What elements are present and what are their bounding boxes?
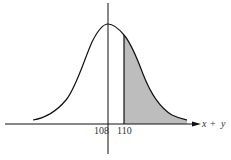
bell-curve (33, 24, 187, 120)
axis-label-y: y (220, 118, 226, 129)
normal-curve-diagram: 108 110 x + y (0, 0, 231, 160)
axis-label-x: x (201, 118, 207, 129)
mean-label: 108 (94, 125, 109, 136)
axis-label-plus: + (210, 118, 216, 129)
axis-arrow-icon (192, 122, 201, 127)
cutoff-label: 110 (117, 125, 132, 136)
shaded-tail-region (124, 35, 187, 124)
